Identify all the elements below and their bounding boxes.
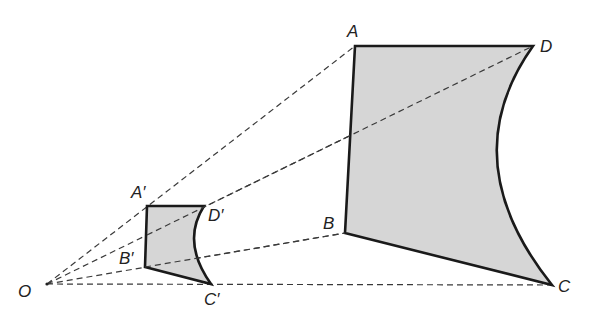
label-c: C (558, 277, 571, 296)
label-a-prime: A′ (130, 183, 146, 202)
label-c-prime: C′ (204, 290, 220, 309)
ray-o-c (47, 284, 552, 285)
enlargement-diagram: O A D B C A′ D′ B′ C′ (0, 0, 601, 324)
ray-o-a (47, 46, 355, 284)
large-shape-abcd (345, 46, 552, 285)
label-b-prime: B′ (119, 249, 134, 268)
label-d: D (540, 37, 552, 56)
label-d-prime: D′ (208, 206, 224, 225)
center-point-o (45, 282, 48, 285)
label-a: A (346, 22, 358, 41)
label-o: O (18, 282, 31, 301)
label-b: B (323, 214, 334, 233)
small-shape-abcd-prime (145, 206, 211, 284)
